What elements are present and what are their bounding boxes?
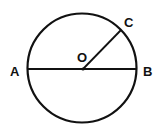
label-b: B [143, 64, 152, 79]
label-o: O [77, 50, 87, 65]
label-c: C [124, 15, 134, 30]
center-point-o [81, 67, 84, 70]
radius-oc [83, 30, 121, 69]
circle-diagram: A B C O [0, 0, 163, 125]
label-a: A [10, 64, 20, 79]
